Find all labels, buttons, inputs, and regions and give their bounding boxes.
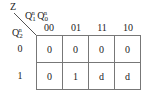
column-header: 11 xyxy=(89,22,115,33)
output-label: Z xyxy=(10,2,16,12)
row-header: 0 xyxy=(14,43,26,54)
column-header: 10 xyxy=(115,22,141,33)
row-header: 1 xyxy=(14,70,26,81)
table-row: 0 1 d d xyxy=(37,63,141,90)
kmap-cell: 0 xyxy=(89,36,115,63)
kmap-cell: 0 xyxy=(63,36,89,63)
kmap-cell: d xyxy=(115,63,141,90)
kmap-cell: d xyxy=(89,63,115,90)
table-row: 0 0 0 0 xyxy=(37,36,141,63)
kmap-cell: 0 xyxy=(115,36,141,63)
row-variable-label: Q2n xyxy=(12,25,22,41)
column-header: 01 xyxy=(63,22,89,33)
kmap-cell: 0 xyxy=(37,36,63,63)
column-header: 00 xyxy=(36,22,62,33)
kmap-grid: 0 0 0 0 0 1 d d xyxy=(36,35,141,90)
kmap-cell: 1 xyxy=(63,63,89,90)
kmap-cell: 0 xyxy=(37,63,63,90)
